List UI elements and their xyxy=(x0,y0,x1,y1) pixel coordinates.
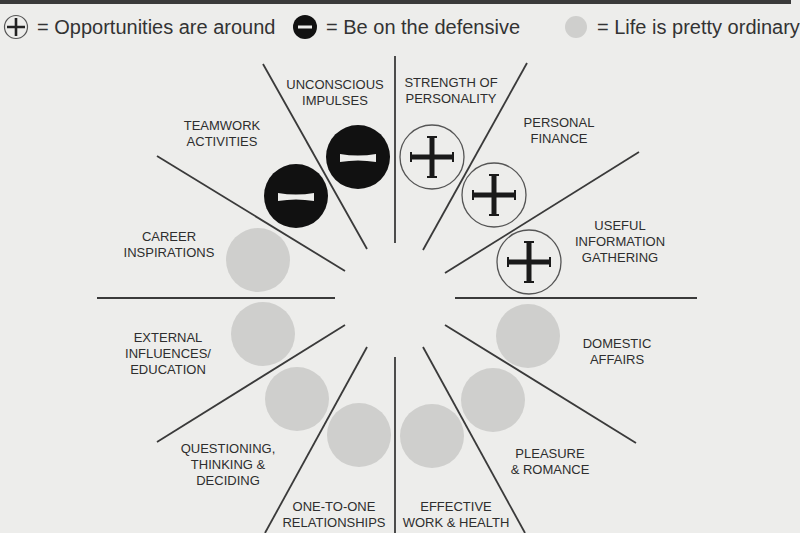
label-line: STRENGTH OF xyxy=(404,75,497,91)
marker-strength-of-personality xyxy=(400,125,464,189)
marker-useful-information xyxy=(497,230,561,294)
label-career-inspirations: CAREER INSPIRATIONS xyxy=(124,229,215,261)
label-unconscious-impulses: UNCONSCIOUS IMPULSES xyxy=(286,77,384,109)
label-teamwork-activities: TEAMWORK ACTIVITIES xyxy=(184,118,261,150)
marker-domestic-affairs xyxy=(496,304,560,368)
marker-teamwork-activities xyxy=(264,164,328,228)
label-line: WORK & HEALTH xyxy=(403,515,510,531)
marker-effective-work xyxy=(400,404,464,468)
label-line: ONE-TO-ONE xyxy=(282,499,385,515)
label-line: CAREER xyxy=(124,229,215,245)
label-line: FINANCE xyxy=(524,131,595,147)
marker-unconscious-impulses xyxy=(326,125,390,189)
marker-questioning xyxy=(265,367,329,431)
label-line: INFLUENCES/ xyxy=(125,346,211,362)
label-line: PLEASURE xyxy=(511,446,590,462)
label-line: PERSONALITY xyxy=(404,91,497,107)
label-line: EXTERNAL xyxy=(125,330,211,346)
label-personal-finance: PERSONAL FINANCE xyxy=(524,115,595,147)
label-strength-of-personality: STRENGTH OF PERSONALITY xyxy=(404,75,497,107)
label-line: DOMESTIC xyxy=(583,336,652,352)
label-line: IMPULSES xyxy=(286,93,384,109)
label-useful-information: USEFUL INFORMATION GATHERING xyxy=(575,218,665,266)
label-line: & ROMANCE xyxy=(511,462,590,478)
label-line: EFFECTIVE xyxy=(403,499,510,515)
label-one-to-one: ONE-TO-ONE RELATIONSHIPS xyxy=(282,499,385,531)
label-questioning: QUESTIONING, THINKING & DECIDING xyxy=(181,441,276,489)
label-line: THINKING & xyxy=(181,457,276,473)
label-external-influences: EXTERNAL INFLUENCES/ EDUCATION xyxy=(125,330,211,378)
label-line: USEFUL xyxy=(575,218,665,234)
marker-personal-finance xyxy=(462,163,526,227)
label-line: TEAMWORK xyxy=(184,118,261,134)
label-line: PERSONAL xyxy=(524,115,595,131)
label-line: ACTIVITIES xyxy=(184,134,261,150)
label-line: RELATIONSHIPS xyxy=(282,515,385,531)
marker-pleasure-romance xyxy=(461,368,525,432)
label-line: AFFAIRS xyxy=(583,352,652,368)
label-line: EDUCATION xyxy=(125,362,211,378)
marker-one-to-one xyxy=(327,403,391,467)
label-line: GATHERING xyxy=(575,250,665,266)
label-effective-work: EFFECTIVE WORK & HEALTH xyxy=(403,499,510,531)
label-line: DECIDING xyxy=(181,473,276,489)
marker-career-inspirations xyxy=(226,228,290,292)
marker-external-influences xyxy=(231,302,295,366)
label-line: UNCONSCIOUS xyxy=(286,77,384,93)
label-pleasure-romance: PLEASURE & ROMANCE xyxy=(511,446,590,478)
label-line: INSPIRATIONS xyxy=(124,245,215,261)
label-domestic-affairs: DOMESTIC AFFAIRS xyxy=(583,336,652,368)
label-line: INFORMATION xyxy=(575,234,665,250)
label-line: QUESTIONING, xyxy=(181,441,276,457)
